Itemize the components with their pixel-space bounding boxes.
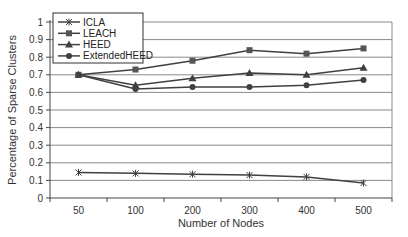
- y-tick-label: 1: [37, 17, 43, 28]
- y-tick-label: 0.8: [29, 52, 43, 63]
- legend-label: ICLA: [83, 17, 106, 28]
- x-tick-label: 300: [241, 205, 258, 216]
- data-series: [75, 45, 368, 186]
- y-tick-label: 0.6: [29, 87, 43, 98]
- y-tick-label: 0.7: [29, 69, 43, 80]
- legend-label: LEACH: [83, 28, 116, 39]
- legend: ICLALEACHHEEDExtendedHEED: [53, 13, 153, 63]
- y-tick-label: 0: [37, 193, 43, 204]
- y-axis-label: Percentage of Sparse Clusters: [6, 35, 18, 185]
- y-tick-label: 0.2: [29, 157, 43, 168]
- x-tick-labels: 50100200300400500: [73, 205, 372, 216]
- x-tick-label: 400: [298, 205, 315, 216]
- legend-label: HEED: [83, 39, 111, 50]
- x-tick-label: 100: [127, 205, 144, 216]
- y-tick-label: 0.4: [29, 122, 43, 133]
- y-tick-label: 0.5: [29, 105, 43, 116]
- x-tick-label: 50: [73, 205, 85, 216]
- line-chart: 00.10.20.30.40.50.60.70.80.91 5010020030…: [0, 0, 408, 237]
- y-tick-label: 0.3: [29, 140, 43, 151]
- x-tick-label: 500: [355, 205, 372, 216]
- legend-label: ExtendedHEED: [83, 50, 153, 61]
- x-axis-label: Number of Nodes: [178, 217, 265, 229]
- y-tick-labels: 00.10.20.30.40.50.60.70.80.91: [29, 17, 43, 204]
- series-icla: [76, 169, 367, 187]
- y-tick-label: 0.1: [29, 175, 43, 186]
- x-tick-label: 200: [184, 205, 201, 216]
- y-tick-label: 0.9: [29, 34, 43, 45]
